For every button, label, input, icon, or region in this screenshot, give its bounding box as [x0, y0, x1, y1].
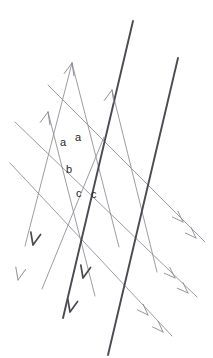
ascending-line-group: [25, 63, 157, 296]
arrowhead-dr-1a: [172, 211, 185, 224]
angle-label-c-left: c: [76, 188, 82, 199]
ascending-line-2: [48, 112, 95, 296]
angle-label-a-left: a: [60, 137, 66, 148]
thick-transversal-left: [63, 21, 133, 318]
geometry-diagram: a a b c c: [0, 0, 213, 358]
parallel-down-line-group: [10, 85, 205, 336]
arrowhead-group-down-left: [13, 232, 90, 313]
geometry-canvas: [0, 0, 213, 358]
angle-label-c-right: c: [91, 189, 97, 200]
thick-transversal-right: [108, 58, 178, 355]
ascending-line-1: [25, 63, 72, 246]
arrowhead-dl-1a: [28, 232, 40, 246]
parallel-down-line-4: [42, 137, 104, 289]
arrowhead-dr-3b: [152, 321, 165, 334]
arrowhead-dr-2a: [164, 267, 177, 280]
angle-label-b: b: [66, 164, 72, 175]
parallel-down-line-2: [15, 122, 197, 297]
angle-label-a-right: a: [75, 132, 81, 143]
arrowhead-dl-1b: [13, 267, 25, 281]
